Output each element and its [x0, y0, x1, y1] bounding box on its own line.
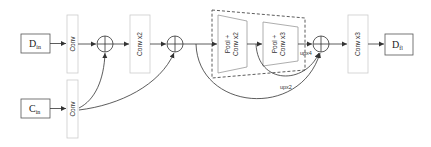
d-in-subscript: in — [36, 44, 41, 50]
pool-conv-x3-block: Pool + Conv x3 — [263, 22, 298, 66]
edges — [50, 44, 384, 111]
conv-x3-block: Conv x3 — [348, 15, 368, 73]
d-out-node: Dfl — [385, 34, 413, 55]
edge-conv-bottom-sum2 — [79, 53, 174, 110]
c-in-node: Cin — [21, 99, 50, 118]
sum-node-2 — [167, 36, 183, 52]
pool-conv-x3-label-line1: Pool + — [271, 34, 278, 53]
network-diagram: Din Cin Conv Conv Conv x2 Pool + Conv x2 — [0, 0, 431, 147]
edge-conv-bottom-sum1 — [79, 53, 105, 108]
sum-node-1 — [97, 36, 113, 52]
conv-top-label: Conv — [69, 36, 76, 52]
sum-node-3 — [313, 36, 329, 52]
d-in-node: Din — [21, 34, 50, 53]
pool-conv-x2-block: Pool + Conv x2 — [218, 15, 247, 73]
d-in-label: D — [29, 38, 36, 49]
conv-x2-block: Conv x2 — [130, 15, 150, 73]
conv-top-block: Conv — [67, 15, 78, 73]
conv-x2-label: Conv x2 — [136, 32, 143, 56]
conv-x3-label: Conv x3 — [354, 32, 361, 56]
conv-bottom-block: Conv — [67, 80, 78, 138]
conv-bottom-label: Conv — [69, 101, 76, 117]
upx2-label: upx2 — [280, 84, 292, 90]
upx4-label: upx4 — [300, 50, 312, 56]
d-out-subscript: fl — [399, 45, 403, 51]
pool-conv-x2-label-line2: Conv x2 — [232, 32, 239, 56]
d-out-label: D — [392, 39, 399, 50]
c-in-subscript: in — [36, 109, 41, 115]
pool-conv-x3-label-line2: Conv x3 — [279, 32, 286, 56]
pool-conv-x2-label-line1: Pool + — [224, 34, 231, 53]
